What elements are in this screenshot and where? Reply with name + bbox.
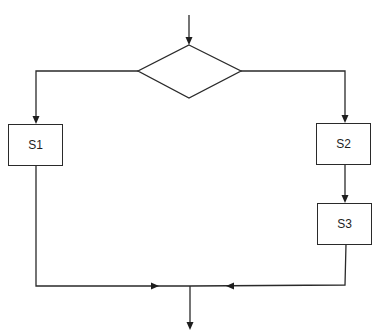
s1-label: S1: [28, 138, 43, 152]
entry-arrow: [186, 15, 193, 45]
process-box-s2: S2: [316, 123, 371, 165]
exit-arrow: [187, 286, 194, 330]
s3-to-merge-arrow: [190, 244, 346, 290]
s2-to-s3-arrow: [342, 165, 349, 203]
s3-label: S3: [337, 217, 352, 231]
s1-to-merge-arrow: [36, 165, 190, 290]
s2-label: S2: [336, 137, 351, 151]
left-branch-arrow: [33, 71, 139, 124]
process-box-s3: S3: [317, 203, 372, 245]
decision-diamond: [138, 45, 241, 98]
flowchart-connectors: [0, 0, 381, 336]
process-box-s1: S1: [8, 124, 63, 166]
right-branch-arrow: [241, 71, 349, 123]
